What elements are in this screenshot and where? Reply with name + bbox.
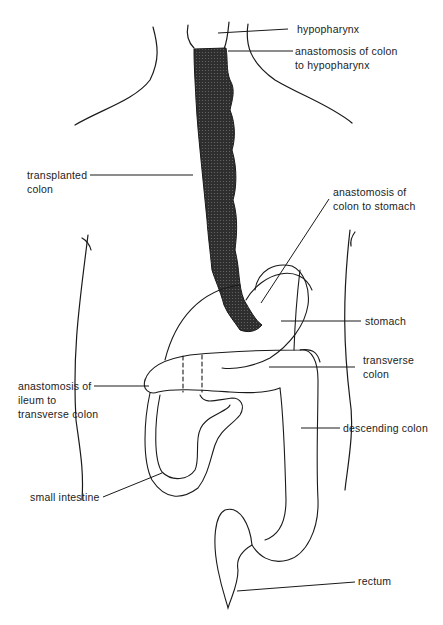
label-transplanted-colon-2: colon	[27, 182, 53, 196]
label-transverse-colon-1: transverse	[363, 353, 414, 367]
label-anastomosis-ileum-1: anastomosis of	[18, 379, 91, 393]
anatomy-drawing	[0, 0, 443, 625]
label-anastomosis-stomach-2: colon to stomach	[333, 199, 416, 213]
label-transplanted-colon-1: transplanted	[27, 168, 87, 182]
label-stomach: stomach	[365, 314, 406, 328]
label-small-intestine: small intestine	[30, 490, 100, 504]
transplanted-colon	[194, 48, 262, 332]
label-rectum: rectum	[358, 574, 391, 588]
label-anastomosis-hypopharynx-2: to hypopharynx	[295, 58, 370, 72]
label-transverse-colon-2: colon	[363, 367, 389, 381]
label-anastomosis-hypopharynx-1: anastomosis of colon	[295, 44, 398, 58]
label-anastomosis-stomach-1: anastomosis of	[333, 185, 406, 199]
label-anastomosis-ileum-3: transverse colon	[18, 407, 98, 421]
label-hypopharynx: hypopharynx	[297, 22, 359, 36]
label-descending-colon: descending colon	[343, 421, 428, 435]
label-anastomosis-ileum-2: ileum to	[18, 393, 56, 407]
